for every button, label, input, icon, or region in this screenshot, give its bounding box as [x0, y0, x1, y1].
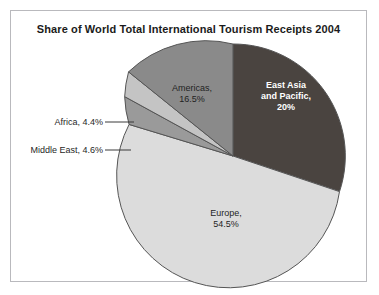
pie-label-middle-east: Middle East, 4.6% [5, 145, 103, 156]
pie-label-east-asia-and-pacific: East Asia and Pacific, 20% [249, 80, 323, 113]
pie-label-line-2: 16.5% [155, 94, 229, 105]
pie-label-line-3: 20% [249, 102, 323, 113]
pie-label-line-1: East Asia [249, 80, 323, 91]
pie-label-americas: Americas, 16.5% [155, 83, 229, 105]
pie-label-line-1: Americas, [155, 83, 229, 94]
pie-label-line-1: Europe, [193, 208, 259, 219]
pie-label-africa: Africa, 4.4% [18, 117, 103, 128]
pie-label-line-2: 54.5% [193, 219, 259, 230]
pie-label-line-2: and Pacific, [249, 91, 323, 102]
pie-label-europe: Europe, 54.5% [193, 208, 259, 230]
